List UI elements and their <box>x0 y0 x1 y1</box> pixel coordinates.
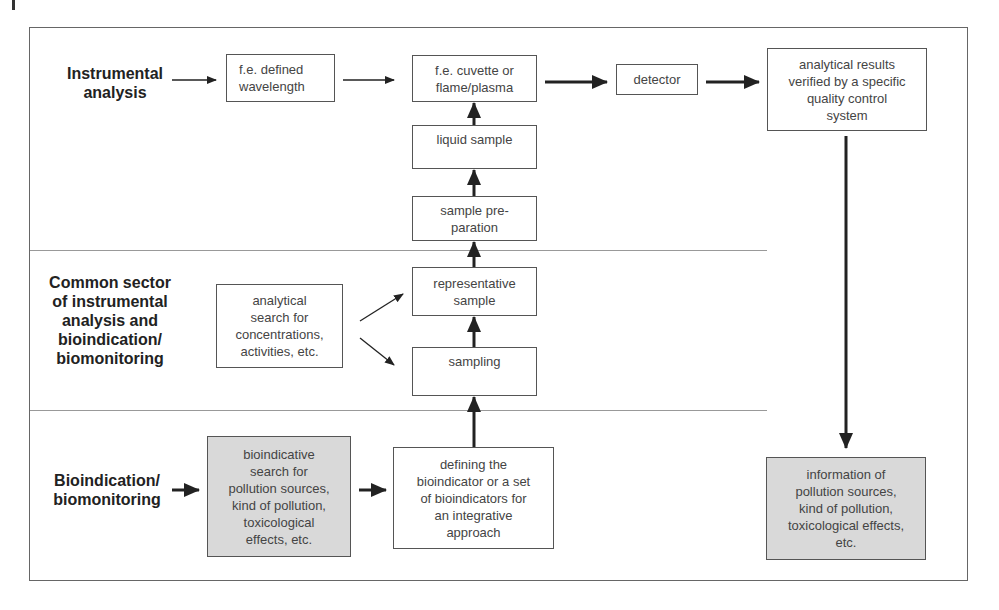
box-sampling: sampling <box>412 347 537 396</box>
box-defining-bioindicator: defining the bioindicator or a set of bi… <box>393 447 554 549</box>
box-sample-preparation: sample pre- paration <box>412 196 537 241</box>
box-analytical-search: analytical search for concentrations, ac… <box>216 284 343 368</box>
box-bioindicative-search: bioindicative search for pollution sourc… <box>207 436 351 557</box>
box-cuvette-flame-plasma: f.e. cuvette or flame/plasma <box>412 55 537 102</box>
section-label-bioindication: Bioindication/ biomonitoring <box>42 471 172 509</box>
box-analytical-results: analytical results verified by a specifi… <box>767 48 927 131</box>
box-liquid-sample: liquid sample <box>412 125 537 169</box>
cut-off-caption <box>12 603 982 610</box>
section-label-common-sector: Common sector of instrumental analysis a… <box>38 273 182 368</box>
box-representative-sample: representative sample <box>412 267 537 316</box>
box-defined-wavelength: f.e. defined wavelength <box>226 54 335 102</box>
box-detector: detector <box>616 64 698 95</box>
box-pollution-information: information of pollution sources, kind o… <box>766 457 926 560</box>
section-divider-1 <box>30 250 767 251</box>
page-margin-mark <box>12 0 15 10</box>
section-divider-2 <box>30 410 767 411</box>
section-label-instrumental-analysis: Instrumental analysis <box>50 64 180 102</box>
